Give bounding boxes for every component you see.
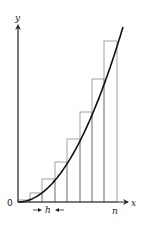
- upper-sum-rectangles: [18, 41, 117, 202]
- rectangle-7: [92, 79, 104, 202]
- h-label: h: [45, 205, 51, 215]
- rectangle-5: [67, 139, 80, 202]
- y-axis-label: y: [14, 13, 21, 23]
- riemann-sum-diagram: y x 0 h n: [0, 0, 145, 225]
- n-label: n: [112, 206, 118, 216]
- h-left-pointing-arrow-icon: [55, 208, 59, 212]
- parabola-curve: [18, 27, 123, 202]
- axes: [15, 24, 129, 205]
- origin-label: 0: [7, 198, 13, 208]
- x-axis-label: x: [131, 198, 136, 208]
- rectangle-6: [80, 112, 92, 202]
- h-right-pointing-arrow-icon: [38, 208, 42, 212]
